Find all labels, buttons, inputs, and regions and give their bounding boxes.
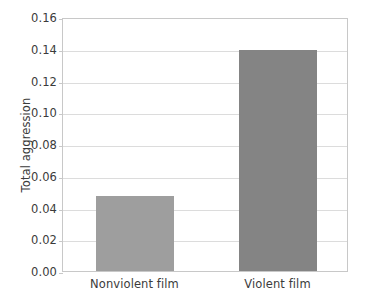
y-axis-tick-mark — [59, 273, 63, 274]
bar — [96, 196, 174, 271]
y-axis-tick-label: 0.14 — [7, 45, 57, 57]
y-axis-tick-label: 0.06 — [7, 172, 57, 184]
y-axis-tick-mark — [59, 83, 63, 84]
y-axis-tick-label: 0.12 — [7, 77, 57, 89]
y-axis-tick-mark — [59, 19, 63, 20]
y-axis-tick-mark — [59, 241, 63, 242]
y-axis-tick-label: 0.10 — [7, 109, 57, 121]
y-axis-tick-label: 0.16 — [7, 13, 57, 25]
y-axis-tick-mark — [59, 146, 63, 147]
y-axis-tick-label: 0.04 — [7, 204, 57, 216]
plot-area: 0.000.020.040.060.080.100.120.140.16Nonv… — [62, 18, 348, 272]
y-axis-tick-label: 0.08 — [7, 140, 57, 152]
x-axis-category-label: Nonviolent film — [90, 279, 179, 291]
y-axis-tick-mark — [59, 178, 63, 179]
y-axis-tick-label: 0.02 — [7, 236, 57, 248]
y-axis-tick-mark — [59, 51, 63, 52]
x-axis-category-label: Violent film — [244, 279, 310, 291]
y-axis-tick-mark — [59, 114, 63, 115]
bar-chart: Total aggression 0.000.020.040.060.080.1… — [0, 0, 366, 306]
bar — [239, 50, 317, 271]
y-axis-tick-mark — [59, 210, 63, 211]
y-axis-tick-label: 0.00 — [7, 267, 57, 279]
